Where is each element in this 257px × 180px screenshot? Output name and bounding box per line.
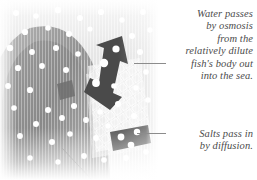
osmosis-caption-line-5: fish's body out xyxy=(167,58,253,70)
fish-gill-illustration xyxy=(0,0,158,180)
salts-caption-line-2: by diffusion. xyxy=(167,140,253,152)
illustration-canvas xyxy=(0,0,158,180)
osmosis-caption-line-6: into the sea. xyxy=(167,70,253,82)
figure-root: Water passes by osmosis from the relativ… xyxy=(0,0,257,180)
osmosis-leader-line xyxy=(134,63,166,64)
top-fade-overlay xyxy=(0,0,158,16)
osmosis-caption-line-4: relatively dilute xyxy=(167,45,253,57)
osmosis-caption-line-1: Water passes xyxy=(167,8,253,20)
left-fade-overlay xyxy=(0,0,16,180)
salts-caption: Salts pass in by diffusion. xyxy=(167,128,253,153)
salts-leader-line xyxy=(137,133,166,134)
right-fade-overlay xyxy=(118,0,158,180)
osmosis-caption: Water passes by osmosis from the relativ… xyxy=(167,8,253,82)
osmosis-caption-line-2: by osmosis xyxy=(167,20,253,32)
salts-caption-line-1: Salts pass in xyxy=(167,128,253,140)
osmosis-caption-line-3: from the xyxy=(167,33,253,45)
